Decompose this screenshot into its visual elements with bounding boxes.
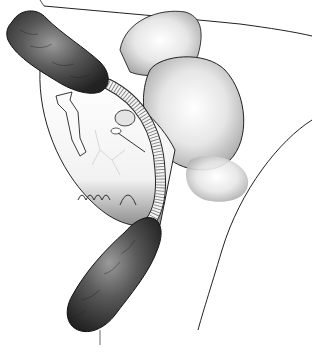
medical-illustration bbox=[0, 0, 317, 355]
lower-tissue-mass bbox=[67, 218, 161, 332]
upper-tissue-mass bbox=[7, 11, 108, 93]
